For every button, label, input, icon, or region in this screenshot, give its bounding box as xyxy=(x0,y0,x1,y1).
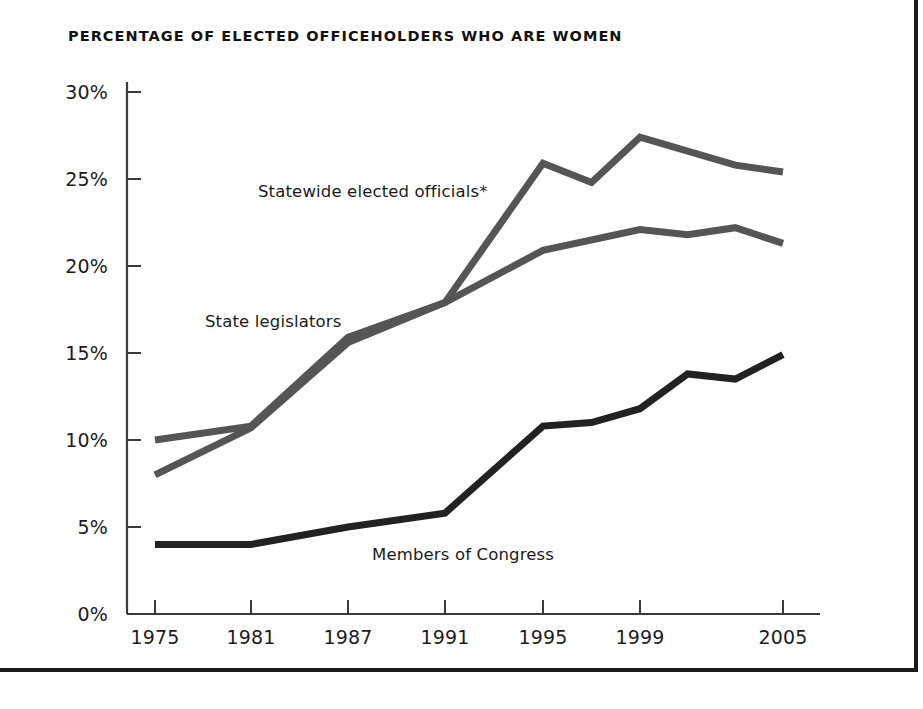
series-label: Statewide elected officials* xyxy=(258,182,488,201)
x-axis-tick-label: 1991 xyxy=(405,626,485,648)
series-line-2 xyxy=(155,355,783,545)
x-axis-tick-label: 1995 xyxy=(503,626,583,648)
series-label: Members of Congress xyxy=(372,545,554,564)
y-axis-tick-label: 25% xyxy=(38,168,108,190)
y-axis-tick-label: 15% xyxy=(38,342,108,364)
series-line-1 xyxy=(155,228,783,440)
x-axis-tick-label: 1975 xyxy=(115,626,195,648)
y-axis-tick-label: 30% xyxy=(38,81,108,103)
y-axis-tick-label: 5% xyxy=(38,516,108,538)
x-axis-tick-label: 1981 xyxy=(211,626,291,648)
y-axis-tick-label: 10% xyxy=(38,429,108,451)
y-axis-tick-label: 20% xyxy=(38,255,108,277)
x-axis-tick-label: 1987 xyxy=(308,626,388,648)
line-chart-plot xyxy=(0,0,923,709)
y-axis-tick-label: 0% xyxy=(38,603,108,625)
series-label: State legislators xyxy=(205,312,342,331)
chart-page: PERCENTAGE OF ELECTED OFFICEHOLDERS WHO … xyxy=(0,0,923,709)
x-axis-tick-label: 2005 xyxy=(743,626,823,648)
x-axis-tick-label: 1999 xyxy=(600,626,680,648)
